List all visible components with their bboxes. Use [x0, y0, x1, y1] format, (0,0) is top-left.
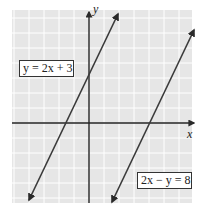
- equation-label-line2: 2x − y = 8: [137, 172, 192, 189]
- x-axis-label: x: [187, 127, 192, 142]
- y-axis-label: y: [93, 2, 98, 17]
- equation-label-line1: y = 2x + 3: [19, 60, 74, 77]
